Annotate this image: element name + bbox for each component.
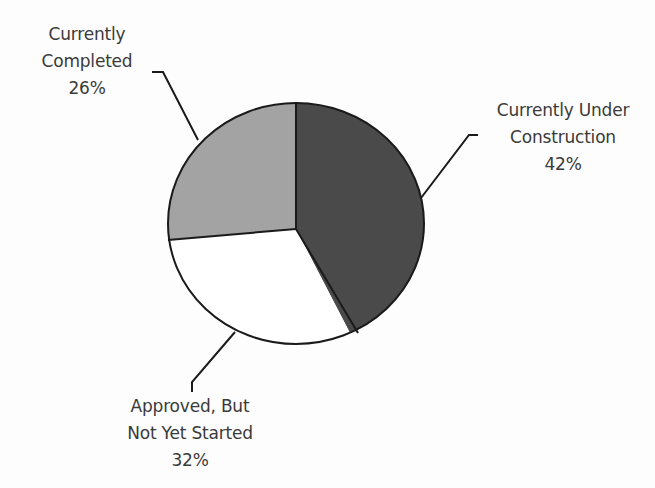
label-approved-line2: Not Yet Started	[105, 420, 275, 447]
label-currently-under-construction: Currently Under Construction 42%	[478, 97, 648, 178]
label-completed-pct: 26%	[27, 75, 147, 102]
leader-line-completed	[152, 72, 198, 140]
label-approved-line1: Approved, But	[105, 393, 275, 420]
label-approved-pct: 32%	[105, 447, 275, 474]
label-construction-line1: Currently Under	[478, 97, 648, 124]
label-construction-pct: 42%	[478, 151, 648, 178]
label-currently-completed: Currently Completed 26%	[27, 21, 147, 102]
slice-completed	[150, 90, 296, 241]
leader-line-approved	[192, 332, 235, 392]
label-approved-not-started: Approved, But Not Yet Started 32%	[105, 393, 275, 474]
label-completed-line2: Completed	[27, 48, 147, 75]
label-construction-line2: Construction	[478, 124, 648, 151]
label-completed-line1: Currently	[27, 21, 147, 48]
leader-line-construction	[421, 135, 478, 198]
